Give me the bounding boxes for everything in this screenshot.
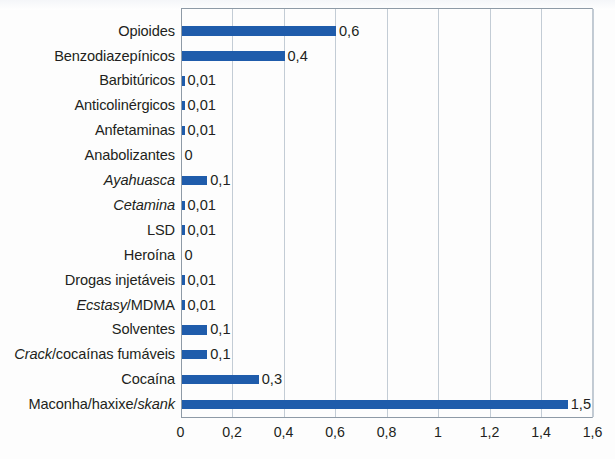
bar bbox=[182, 176, 208, 186]
bar-row: Anabolizantes0 bbox=[0, 143, 615, 168]
bar-value-label: 0,01 bbox=[188, 118, 216, 143]
category-label: Crack/cocaínas fumáveis bbox=[14, 342, 175, 367]
category-label: Drogas injetáveis bbox=[65, 268, 175, 293]
x-tick-1,4: 1,4 bbox=[531, 424, 551, 440]
bar-row: Benzodiazepínicos0,4 bbox=[0, 44, 615, 69]
category-label: Anabolizantes bbox=[85, 143, 175, 168]
x-tick-0,2: 0,2 bbox=[222, 424, 242, 440]
x-tick-0,4: 0,4 bbox=[274, 424, 294, 440]
category-label: Benzodiazepínicos bbox=[54, 44, 175, 69]
category-label: Cocaína bbox=[121, 367, 175, 392]
bar-row: LSD0,01 bbox=[0, 218, 615, 243]
category-label: Anfetaminas bbox=[95, 118, 175, 143]
bar-row: Anticolinérgicos0,01 bbox=[0, 93, 615, 118]
bar bbox=[182, 26, 337, 36]
bar-value-label: 0,3 bbox=[262, 367, 282, 392]
x-tick-1,2: 1,2 bbox=[480, 424, 500, 440]
bar bbox=[182, 300, 185, 310]
bar bbox=[182, 51, 285, 61]
bar-value-label: 1,5 bbox=[571, 392, 591, 417]
category-label: Ayahuasca bbox=[104, 168, 175, 193]
bar-value-label: 0,01 bbox=[188, 268, 216, 293]
bar bbox=[182, 350, 208, 360]
bar bbox=[182, 400, 568, 410]
bar-value-label: 0,1 bbox=[210, 168, 230, 193]
bar-row: Barbitúricos0,01 bbox=[0, 68, 615, 93]
bar-value-label: 0,01 bbox=[188, 93, 216, 118]
category-label: Opioides bbox=[118, 19, 175, 44]
bar-row: Ayahuasca0,1 bbox=[0, 168, 615, 193]
x-tick-1,6: 1,6 bbox=[583, 424, 603, 440]
bar bbox=[182, 225, 185, 235]
bar-row: Maconha/haxixe/skank1,5 bbox=[0, 392, 615, 417]
category-label: Heroína bbox=[124, 243, 175, 268]
bar bbox=[182, 375, 259, 385]
category-label: Barbitúricos bbox=[99, 68, 175, 93]
category-label: LSD bbox=[147, 218, 175, 243]
bar-value-label: 0 bbox=[185, 243, 193, 268]
bar-row: Anfetaminas0,01 bbox=[0, 118, 615, 143]
bar-row: Cetamina0,01 bbox=[0, 193, 615, 218]
bar-row: Opioides0,6 bbox=[0, 19, 615, 44]
bar bbox=[182, 76, 185, 86]
bar bbox=[182, 275, 185, 285]
chart-screenshot: Opioides0,6Benzodiazepínicos0,4Barbitúri… bbox=[0, 0, 615, 459]
bar-value-label: 0,01 bbox=[188, 293, 216, 318]
horizontal-bar-chart: Opioides0,6Benzodiazepínicos0,4Barbitúri… bbox=[0, 0, 615, 459]
bar-row: Drogas injetáveis0,01 bbox=[0, 268, 615, 293]
bar bbox=[182, 201, 185, 211]
bar bbox=[182, 325, 208, 335]
category-label: Anticolinérgicos bbox=[74, 93, 175, 118]
bar-row: Ecstasy/MDMA0,01 bbox=[0, 293, 615, 318]
bar-row: Heroína0 bbox=[0, 243, 615, 268]
bar-value-label: 0,01 bbox=[188, 68, 216, 93]
bar bbox=[182, 101, 185, 111]
bar-row: Solventes0,1 bbox=[0, 317, 615, 342]
bar-row: Cocaína0,3 bbox=[0, 367, 615, 392]
x-tick-0,6: 0,6 bbox=[325, 424, 345, 440]
bar-row: Crack/cocaínas fumáveis0,1 bbox=[0, 342, 615, 367]
category-label: Maconha/haxixe/skank bbox=[29, 392, 175, 417]
bar-value-label: 0,6 bbox=[339, 19, 359, 44]
category-label: Ecstasy/MDMA bbox=[76, 293, 175, 318]
bar bbox=[182, 126, 185, 136]
bar-value-label: 0,4 bbox=[288, 44, 308, 69]
x-tick-0: 0 bbox=[177, 424, 185, 440]
x-tick-1: 1 bbox=[434, 424, 442, 440]
category-label: Solventes bbox=[112, 317, 175, 342]
x-tick-0,8: 0,8 bbox=[377, 424, 397, 440]
bar-value-label: 0,1 bbox=[210, 342, 230, 367]
bar-value-label: 0,01 bbox=[188, 193, 216, 218]
bar-value-label: 0 bbox=[185, 143, 193, 168]
bar-value-label: 0,01 bbox=[188, 218, 216, 243]
category-label: Cetamina bbox=[113, 193, 175, 218]
bar-value-label: 0,1 bbox=[210, 317, 230, 342]
